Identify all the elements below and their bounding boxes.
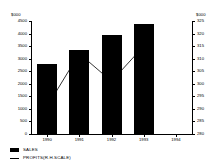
legend-line-icon <box>10 156 19 160</box>
legend-square-icon <box>10 148 19 152</box>
x-tick-label-1990: 1990 <box>35 138 59 142</box>
legend-item-sales: SALES <box>10 146 160 154</box>
profits-polyline <box>47 46 144 106</box>
x-tick-mark <box>79 135 80 137</box>
x-tick-label-1993: 1993 <box>132 138 156 142</box>
legend-item-profits: PROFITS(R.H.SCALE) <box>10 154 160 162</box>
chart-container: $000 $000 050010001500200025003000350040… <box>0 0 224 167</box>
legend-label: SALES <box>23 148 38 152</box>
x-tick-mark <box>112 135 113 137</box>
x-tick-label-1991: 1991 <box>67 138 91 142</box>
x-tick-label-1992: 1992 <box>100 138 124 142</box>
chart-legend: SALESPROFITS(R.H.SCALE) <box>10 146 160 162</box>
legend-label: PROFITS(R.H.SCALE) <box>23 156 71 160</box>
x-tick-mark <box>176 135 177 137</box>
x-tick-label-1994: 1994 <box>164 138 188 142</box>
x-tick-mark <box>47 135 48 137</box>
x-tick-mark <box>144 135 145 137</box>
